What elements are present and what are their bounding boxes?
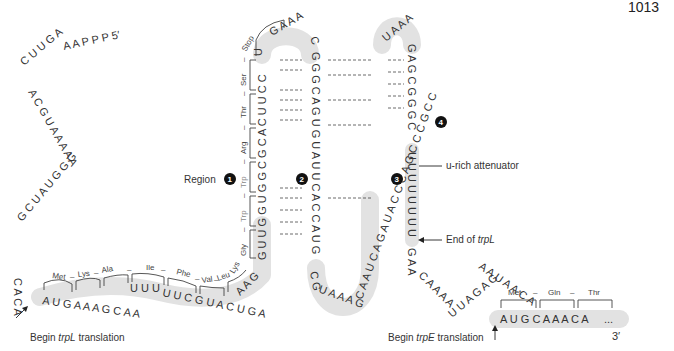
- u-rich-attenuator-strand: U U U U U U U U G A A: [406, 152, 418, 276]
- svg-text:2: 2: [300, 175, 305, 184]
- region-2-strand: G G G C A G U G U A U U C A C C A U G: [310, 52, 322, 254]
- end-of-trpL-annotation: End of trpL: [418, 234, 495, 245]
- svg-text:–: –: [239, 57, 248, 62]
- svg-text:4: 4: [439, 118, 444, 127]
- svg-text:Thr: Thr: [588, 288, 600, 297]
- svg-text:–: –: [533, 288, 538, 297]
- svg-text:–: –: [239, 159, 248, 164]
- base-pairs-2-3: [328, 60, 372, 198]
- svg-text:G A A: G A A: [406, 248, 418, 276]
- u-rich-attenuator-annotation: u-rich attenuator: [419, 160, 519, 171]
- svg-text:Begin trpL transla: Begin trpL translation: [30, 332, 125, 343]
- svg-text:A A P P P 5′: A A P P P 5′: [62, 28, 121, 52]
- svg-text:–: –: [570, 288, 575, 297]
- svg-text:Trp: Trp: [239, 176, 248, 188]
- svg-text:1: 1: [228, 175, 233, 184]
- svg-text:–: –: [239, 125, 248, 130]
- svg-text:Trp: Trp: [239, 210, 248, 222]
- trp-attenuation-diagram: 1013 A A P P P 5′ C U U G A A C G U A A …: [0, 0, 674, 351]
- svg-text:G C U A U G G G: G C U A U G G G: [14, 150, 78, 223]
- svg-text:U U U: U U U: [130, 282, 160, 294]
- svg-text:–: –: [94, 268, 99, 277]
- svg-text:–: –: [239, 91, 248, 96]
- svg-text:u-rich attenuator: u-rich attenuator: [446, 160, 519, 171]
- region-3-badge: 3: [391, 173, 403, 185]
- region-label: Region: [184, 174, 216, 185]
- svg-text:...: ...: [604, 313, 613, 325]
- svg-text:–: –: [161, 265, 166, 274]
- svg-text:Phe: Phe: [176, 267, 193, 279]
- svg-text:Lys: Lys: [228, 260, 242, 275]
- svg-text:–: –: [70, 272, 75, 281]
- region-1-badge: 1: [224, 173, 236, 185]
- region-2-badge: 2: [296, 173, 308, 185]
- trpE-codon-brackets: [501, 300, 612, 308]
- svg-text:–: –: [239, 193, 248, 198]
- begin-trpE-annotation: Begin trpE translation: [388, 325, 498, 343]
- svg-text:Begin trpE transla: Begin trpE translation: [388, 332, 484, 343]
- svg-text:U U U U U U U U: U U U U U U U U: [406, 152, 418, 237]
- region-1-strand: G U U G G U G G C G C A C U U C C: [256, 74, 268, 260]
- svg-text:C U U G A: C U U G A: [18, 25, 66, 68]
- svg-text:Lys: Lys: [77, 269, 90, 279]
- svg-text:End of trpL: End of trpL: [446, 234, 495, 245]
- svg-text:A U G A A A G C A A: A U G A A A G C A A: [42, 294, 142, 320]
- svg-text:G U U G G U G G C G C A C U U: G U U G G U G G C G C A C U U C C: [256, 74, 268, 260]
- svg-text:Gln: Gln: [548, 288, 560, 297]
- svg-text:–: –: [239, 227, 248, 232]
- svg-text:G G G C A G U G U A U U C A C: G G G C A G U G U A U U C A C C A U G: [310, 52, 322, 254]
- page-number: 1013: [628, 0, 659, 15]
- svg-text:C A A A A: C A A A A: [417, 269, 458, 310]
- svg-text:Val: Val: [201, 275, 213, 285]
- svg-text:A U G C A A A C A: A U G C A A A C A: [500, 313, 589, 325]
- svg-text:Ala: Ala: [101, 264, 114, 275]
- svg-text:3: 3: [395, 175, 400, 184]
- svg-text:U: U: [252, 48, 264, 56]
- base-pairs-1-2: [280, 60, 302, 234]
- svg-text:C A C A: C A C A: [12, 278, 24, 317]
- svg-text:Arg: Arg: [239, 142, 248, 154]
- svg-text:Gly: Gly: [239, 244, 248, 256]
- region-4-badge: 4: [435, 116, 447, 128]
- stop-loop-shading: [262, 36, 310, 55]
- three-prime-label: 3′: [612, 330, 620, 342]
- svg-text:Ile: Ile: [146, 263, 155, 272]
- svg-text:Thr: Thr: [239, 106, 248, 118]
- region-4-strand: G A G C G G G C: [406, 44, 418, 130]
- base-pairs-3-4: [388, 60, 404, 108]
- svg-text:–: –: [195, 274, 200, 283]
- svg-text:–: –: [127, 265, 132, 274]
- svg-text:Met: Met: [508, 288, 522, 297]
- svg-text:G A G C G G G C: G A G C G G G C: [406, 44, 418, 130]
- svg-text:Ser: Ser: [239, 73, 248, 86]
